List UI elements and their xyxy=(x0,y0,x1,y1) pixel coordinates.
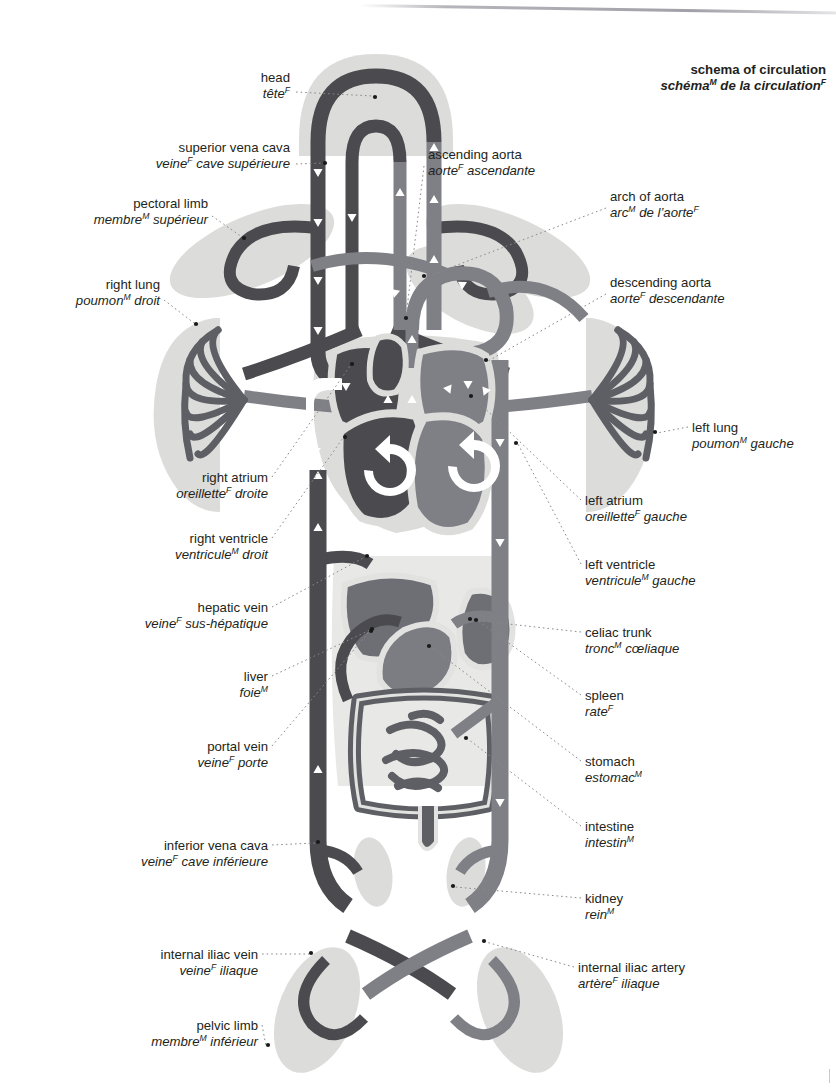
label-internal-iliac-artery-en: internal iliac artery xyxy=(578,960,685,976)
label-arch-of-aorta-fr: arcM de l’aorteF xyxy=(610,205,699,221)
label-intestine-en: intestine xyxy=(585,819,634,835)
label-right-lung: right lungpoumonM droit xyxy=(76,277,160,310)
label-celiac-trunk-en: celiac trunk xyxy=(585,625,679,641)
label-left-ventricle: left ventricleventriculeM gauche xyxy=(585,557,696,590)
label-right-ventricle: right ventricleventriculeM droit xyxy=(175,531,268,564)
label-descending-aorta-fr: aorteF descendante xyxy=(610,291,725,307)
label-internal-iliac-artery: internal iliac arteryartèreF iliaque xyxy=(578,960,685,993)
label-left-ventricle-en: left ventricle xyxy=(585,557,696,573)
label-left-lung: left lungpoumonM gauche xyxy=(692,420,794,453)
label-internal-iliac-artery-fr: artèreF iliaque xyxy=(578,976,685,992)
label-head-fr: têteF xyxy=(261,86,290,102)
label-pelvic-limb: pelvic limbmembreM inférieur xyxy=(151,1018,258,1051)
label-kidney-fr: reinM xyxy=(585,907,623,923)
label-internal-iliac-vein: internal iliac veinveineF iliaque xyxy=(161,947,259,980)
label-kidney-en: kidney xyxy=(585,891,623,907)
label-celiac-trunk-fr: troncM cœliaque xyxy=(585,641,679,657)
label-right-ventricle-en: right ventricle xyxy=(175,531,268,547)
label-pectoral-limb-en: pectoral limb xyxy=(94,196,208,212)
label-ascending-aorta: ascending aortaaorteF ascendante xyxy=(428,147,535,180)
label-left-lung-fr: poumonM gauche xyxy=(692,436,794,452)
label-descending-aorta-en: descending aorta xyxy=(610,275,725,291)
label-left-ventricle-fr: ventriculeM gauche xyxy=(585,573,696,589)
head-vein-inner xyxy=(352,126,400,330)
diagram-canvas: schema of circulation schémaM de la circ… xyxy=(0,0,836,1089)
title-en: schema of circulation xyxy=(660,62,826,78)
label-hepatic-vein: hepatic veinveineF sus-hépatique xyxy=(145,600,268,633)
label-internal-iliac-vein-en: internal iliac vein xyxy=(161,947,259,963)
label-pectoral-limb-fr: membreM supérieur xyxy=(94,212,208,228)
label-liver: liverfoieM xyxy=(240,669,268,702)
label-portal-vein: portal veinveineF porte xyxy=(197,739,268,772)
label-intestine-fr: intestinM xyxy=(585,835,634,851)
label-inferior-vena-cava: inferior vena cavaveineF cave inférieure xyxy=(141,838,268,871)
label-head-en: head xyxy=(261,70,290,86)
label-pectoral-limb: pectoral limbmembreM supérieur xyxy=(94,196,208,229)
label-left-atrium-en: left atrium xyxy=(585,493,687,509)
label-spleen-en: spleen xyxy=(585,688,624,704)
label-hepatic-vein-fr: veineF sus-hépatique xyxy=(145,616,268,632)
label-right-atrium-fr: oreilletteF droite xyxy=(176,486,268,502)
label-right-lung-en: right lung xyxy=(76,277,160,293)
label-descending-aorta: descending aortaaorteF descendante xyxy=(610,275,725,308)
label-inferior-vena-cava-en: inferior vena cava xyxy=(141,838,268,854)
label-ascending-aorta-fr: aorteF ascendante xyxy=(428,163,535,179)
label-pelvic-limb-fr: membreM inférieur xyxy=(151,1034,258,1050)
title-fr: schémaM de la circulationF xyxy=(660,78,826,94)
label-inferior-vena-cava-fr: veineF cave inférieure xyxy=(141,854,268,870)
label-stomach: stomachestomacM xyxy=(585,754,642,787)
label-spleen: spleenrateF xyxy=(585,688,624,721)
label-right-ventricle-fr: ventriculeM droit xyxy=(175,547,268,563)
label-stomach-fr: estomacM xyxy=(585,770,642,786)
label-intestine: intestineintestinM xyxy=(585,819,634,852)
label-liver-en: liver xyxy=(240,669,268,685)
label-right-atrium: right atriumoreilletteF droite xyxy=(176,470,268,503)
label-celiac-trunk: celiac trunktroncM cœliaque xyxy=(585,625,679,658)
label-arch-of-aorta: arch of aortaarcM de l’aorteF xyxy=(610,189,699,222)
label-portal-vein-en: portal vein xyxy=(197,739,268,755)
label-pelvic-limb-en: pelvic limb xyxy=(151,1018,258,1034)
label-arch-of-aorta-en: arch of aorta xyxy=(610,189,699,205)
pulmonary-trunk xyxy=(370,336,406,393)
label-portal-vein-fr: veineF porte xyxy=(197,755,268,771)
label-left-atrium-fr: oreilletteF gauche xyxy=(585,509,687,525)
page-title: schema of circulation schémaM de la circ… xyxy=(660,62,826,95)
label-head: headtêteF xyxy=(261,70,290,103)
label-left-atrium: left atriumoreilletteF gauche xyxy=(585,493,687,526)
label-internal-iliac-vein-fr: veineF iliaque xyxy=(161,963,259,979)
label-superior-vena-cava-fr: veineF cave supérieure xyxy=(156,156,290,172)
label-stomach-en: stomach xyxy=(585,754,642,770)
label-hepatic-vein-en: hepatic vein xyxy=(145,600,268,616)
label-superior-vena-cava: superior vena cavaveineF cave supérieure xyxy=(156,140,290,173)
label-superior-vena-cava-en: superior vena cava xyxy=(156,140,290,156)
label-left-lung-en: left lung xyxy=(692,420,794,436)
label-right-lung-fr: poumonM droit xyxy=(76,293,160,309)
label-right-atrium-en: right atrium xyxy=(176,470,268,486)
rectum xyxy=(420,806,436,849)
label-ascending-aorta-en: ascending aorta xyxy=(428,147,535,163)
label-kidney: kidneyreinM xyxy=(585,891,623,924)
label-liver-fr: foieM xyxy=(240,685,268,701)
circulation-illustration xyxy=(0,0,836,1089)
label-spleen-fr: rateF xyxy=(585,704,624,720)
